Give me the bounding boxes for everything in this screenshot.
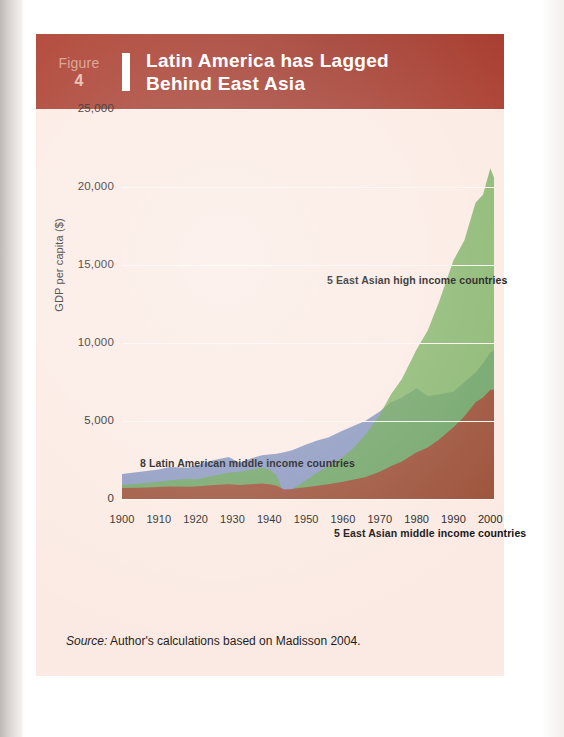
series-annotation: 8 Latin American middle income countries: [140, 457, 355, 469]
y-tick-label: 20,000: [58, 180, 114, 192]
y-tick-label: 10,000: [58, 336, 114, 348]
gridline: [122, 499, 494, 500]
y-tick-label: 0: [58, 492, 114, 504]
chart-area: GDP per capita ($) 05,00010,00015,00020,…: [36, 109, 504, 609]
gridline: [122, 343, 494, 344]
x-tick-label: 2000: [478, 513, 503, 525]
figure-title-line-2: Behind East Asia: [146, 72, 389, 95]
gridline: [122, 421, 494, 422]
figure-number: 4: [36, 73, 122, 88]
figure-label-block: Figure 4: [36, 56, 122, 88]
plot-area: 1900191019201930194019501960197019801990…: [122, 109, 494, 609]
series-annotation: 5 East Asian middle income countries: [334, 527, 526, 539]
figure-label-text: Figure: [59, 55, 100, 71]
gridline: [122, 109, 494, 110]
y-axis-ticks: 05,00010,00015,00020,00025,000: [58, 109, 114, 609]
area-series-svg: [122, 109, 494, 499]
x-tick-label: 1990: [441, 513, 466, 525]
y-tick-label: 25,000: [58, 102, 114, 114]
page-left-edge-shadow: [0, 0, 22, 737]
y-tick-label: 15,000: [58, 258, 114, 270]
source-text: Author's calculations based on Madisson …: [110, 634, 360, 648]
gridline: [122, 265, 494, 266]
series-annotation: 5 East Asian high income countries: [327, 274, 507, 286]
figure-title: Latin America has Lagged Behind East Asi…: [146, 49, 389, 95]
figure-title-line-1: Latin America has Lagged: [146, 49, 389, 72]
figure-header-band: Figure 4 Latin America has Lagged Behind…: [36, 34, 504, 109]
gridline: [122, 187, 494, 188]
x-tick-label: 1940: [257, 513, 282, 525]
x-tick-label: 1910: [146, 513, 171, 525]
x-tick-label: 1960: [331, 513, 356, 525]
x-tick-label: 1920: [183, 513, 208, 525]
x-tick-label: 1950: [294, 513, 319, 525]
x-tick-label: 1930: [220, 513, 245, 525]
x-tick-label: 1970: [367, 513, 392, 525]
y-tick-label: 5,000: [58, 414, 114, 426]
header-divider-rule: [122, 53, 130, 91]
x-tick-label: 1900: [110, 513, 135, 525]
x-tick-label: 1980: [404, 513, 429, 525]
figure-card: Figure 4 Latin America has Lagged Behind…: [36, 34, 504, 676]
source-note: Source: Author's calculations based on M…: [66, 634, 360, 648]
source-prefix: Source:: [66, 634, 107, 648]
